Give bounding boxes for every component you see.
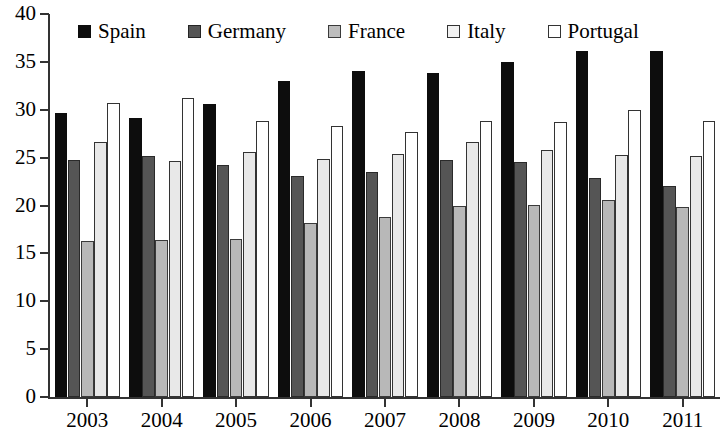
bar-italy-2005 (243, 152, 256, 397)
bar-chart: SpainGermanyFranceItalyPortugal 40353025… (0, 0, 725, 436)
bar-france-2003 (81, 241, 94, 397)
bar-italy-2011 (690, 156, 703, 397)
bar-italy-2008 (466, 142, 479, 397)
bar-italy-2009 (541, 150, 554, 397)
bar-france-2009 (528, 205, 541, 397)
bar-france-2011 (676, 207, 689, 397)
bar-germany-2010 (589, 178, 602, 397)
bar-italy-2007 (392, 154, 405, 397)
bar-france-2004 (155, 240, 168, 397)
bar-germany-2005 (217, 165, 230, 397)
bar-spain-2008 (427, 73, 440, 397)
bar-spain-2006 (278, 81, 291, 397)
bar-portugal-2007 (405, 132, 418, 397)
bar-germany-2011 (663, 186, 676, 397)
bar-france-2008 (453, 206, 466, 397)
bar-france-2005 (230, 239, 243, 397)
bar-germany-2004 (142, 156, 155, 397)
bar-italy-2006 (317, 159, 330, 397)
bar-germany-2009 (514, 162, 527, 397)
bar-portugal-2006 (331, 126, 344, 397)
bar-germany-2006 (291, 176, 304, 397)
bar-portugal-2008 (480, 121, 493, 397)
bar-italy-2010 (615, 155, 628, 397)
bar-portugal-2011 (703, 121, 716, 397)
bar-germany-2003 (68, 160, 81, 397)
bar-portugal-2005 (256, 121, 269, 397)
bar-germany-2008 (440, 160, 453, 397)
bar-spain-2003 (55, 113, 68, 397)
bars-layer (0, 0, 725, 436)
bar-portugal-2009 (554, 122, 567, 397)
bar-portugal-2003 (107, 103, 120, 397)
bar-italy-2003 (94, 142, 107, 397)
plot-area: 4035302520151050 20032004200520062007200… (0, 0, 725, 436)
bar-portugal-2010 (628, 110, 641, 397)
bar-spain-2009 (501, 62, 514, 397)
bar-portugal-2004 (182, 98, 195, 397)
bar-spain-2010 (576, 51, 589, 397)
bar-france-2007 (379, 217, 392, 397)
bar-italy-2004 (169, 161, 182, 397)
bar-spain-2005 (203, 104, 216, 397)
bar-spain-2011 (650, 51, 663, 397)
bar-spain-2007 (352, 71, 365, 397)
bar-france-2006 (304, 223, 317, 397)
bar-spain-2004 (129, 118, 142, 397)
bar-france-2010 (602, 200, 615, 397)
bar-germany-2007 (366, 172, 379, 397)
